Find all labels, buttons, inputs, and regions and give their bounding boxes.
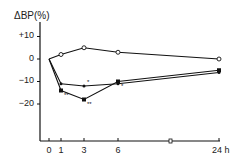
marker-filled-dot (218, 71, 221, 74)
marker-filled-dot (117, 82, 120, 85)
chart: ****** ΔBP(%) +10 0 −10 −20 0 1 3 6 24 h (0, 0, 244, 163)
significance-label: ** (64, 92, 69, 98)
marker-filled-square (82, 98, 86, 102)
marker-filled-dot (83, 85, 86, 88)
marker-open-circle (82, 46, 86, 50)
marker-filled-square (59, 89, 63, 93)
y-axis-label: ΔBP(%) (14, 10, 50, 21)
marker-open-circle (59, 53, 63, 57)
plot-area: ****** (0, 0, 244, 163)
x-tick-3: 3 (74, 145, 94, 155)
significance-label: * (87, 79, 90, 85)
marker-open-circle (116, 50, 120, 54)
y-tick-minus10: −10 (6, 75, 34, 85)
marker-open-circle (217, 57, 221, 61)
significance-label: ** (87, 101, 92, 107)
axis-break (169, 139, 172, 143)
series-line (49, 48, 219, 59)
y-tick-plus10: +10 (6, 30, 34, 40)
y-tick-0: 0 (6, 53, 34, 63)
series-line (49, 59, 219, 86)
marker-filled-dot (60, 82, 63, 85)
series-line (49, 59, 219, 100)
x-tick-6: 6 (108, 145, 128, 155)
x-tick-1: 1 (51, 145, 71, 155)
y-tick-minus20: −20 (6, 98, 34, 108)
x-tick-24h: 24 h (212, 145, 230, 155)
